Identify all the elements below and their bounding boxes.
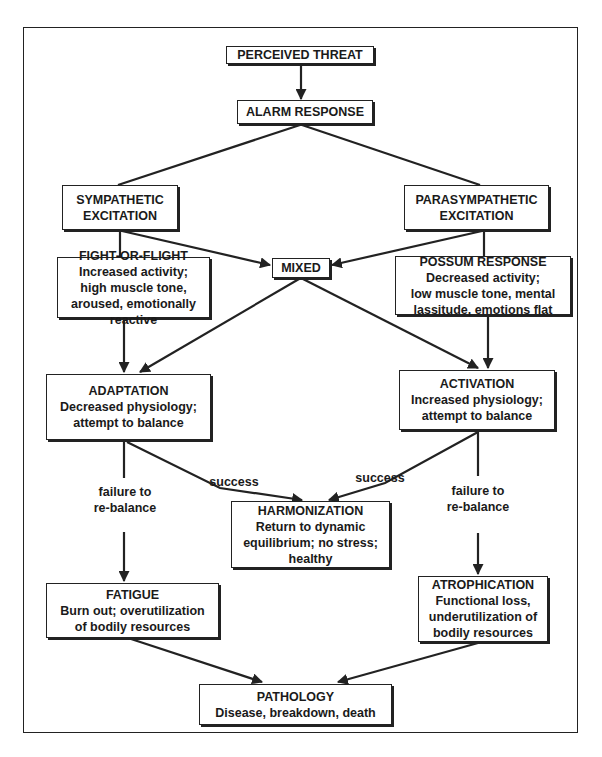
node-title: FATIGUE	[106, 587, 159, 603]
node-atrophication: ATROPHICATION Functional loss, underutil…	[418, 576, 548, 642]
node-title: ADAPTATION	[88, 383, 168, 399]
node-title: HARMONIZATION	[258, 503, 363, 519]
edge-label-right-success: success	[352, 470, 408, 486]
node-desc-line: lassitude, emotions flat	[414, 302, 553, 318]
node-title-line: EXCITATION	[83, 208, 157, 224]
node-title: PERCEIVED THREAT	[237, 47, 362, 63]
node-alarm-response: ALARM RESPONSE	[237, 100, 373, 124]
node-title-line: EXCITATION	[440, 208, 514, 224]
node-desc-line: healthy	[289, 551, 333, 567]
edge-label-left-success: success	[206, 474, 262, 490]
node-desc-line: bodily resources	[433, 625, 533, 641]
node-title: MIXED	[281, 260, 321, 276]
node-desc-line: attempt to balance	[422, 408, 532, 424]
node-harmonization: HARMONIZATION Return to dynamic equilibr…	[231, 501, 390, 568]
node-sympathetic-excitation: SYMPATHETIC EXCITATION	[62, 185, 178, 230]
node-title-line: PARASYMPATHETIC	[415, 192, 537, 208]
node-desc-line: Decreased activity;	[426, 270, 540, 286]
node-desc-line: Increased activity;	[79, 264, 188, 280]
node-title: ATROPHICATION	[432, 577, 534, 593]
node-adaptation: ADAPTATION Decreased physiology; attempt…	[46, 374, 211, 440]
node-desc-line: high muscle tone,	[80, 280, 186, 296]
node-title: PATHOLOGY	[257, 689, 334, 705]
edge-label-line: failure to	[441, 483, 515, 499]
edge-alarm-parasympathetic	[302, 125, 480, 185]
edge-label-line: re-balance	[441, 499, 515, 515]
node-pathology: PATHOLOGY Disease, breakdown, death	[199, 684, 392, 725]
edge-fatigue-pathology	[128, 638, 262, 682]
node-desc-line: equilibrium; no stress;	[243, 535, 378, 551]
node-title: FIGHT-OR-FLIGHT	[79, 248, 188, 264]
node-fatigue: FATIGUE Burn out; overutilization of bod…	[46, 583, 219, 638]
node-desc-line: aroused, emotionally	[71, 296, 196, 312]
node-desc-line: low muscle tone, mental	[411, 286, 555, 302]
node-activation: ACTIVATION Increased physiology; attempt…	[399, 370, 555, 430]
edge-alarm-sympathetic	[118, 125, 300, 185]
node-possum-response: POSSUM RESPONSE Decreased activity; low …	[395, 256, 571, 315]
node-title: POSSUM RESPONSE	[419, 254, 546, 270]
node-title: ACTIVATION	[440, 376, 515, 392]
node-title-line: SYMPATHETIC	[76, 192, 164, 208]
edge-label-line: re-balance	[88, 500, 162, 516]
node-title: ALARM RESPONSE	[246, 104, 364, 120]
node-desc-line: Return to dynamic	[256, 519, 366, 535]
node-desc-line: attempt to balance	[73, 415, 183, 431]
node-desc-line: Functional loss,	[435, 593, 530, 609]
node-parasympathetic-excitation: PARASYMPATHETIC EXCITATION	[404, 185, 549, 230]
edge-label-left-failure: failure to re-balance	[88, 484, 162, 516]
node-fight-or-flight: FIGHT-OR-FLIGHT Increased activity; high…	[57, 257, 210, 318]
node-desc-line: Increased physiology;	[411, 392, 543, 408]
node-perceived-threat: PERCEIVED THREAT	[226, 46, 374, 64]
edge-atrophication-pathology	[338, 643, 478, 682]
node-desc-line: reactive	[110, 312, 157, 328]
node-desc-line: underutilization of	[429, 609, 537, 625]
edge-label-right-failure: failure to re-balance	[441, 483, 515, 515]
node-desc-line: Disease, breakdown, death	[215, 705, 375, 721]
node-mixed: MIXED	[272, 258, 330, 278]
node-desc-line: Burn out; overutilization	[60, 603, 204, 619]
node-desc-line: of bodily resources	[75, 619, 190, 635]
node-desc-line: Decreased physiology;	[60, 399, 197, 415]
edge-label-line: failure to	[88, 484, 162, 500]
